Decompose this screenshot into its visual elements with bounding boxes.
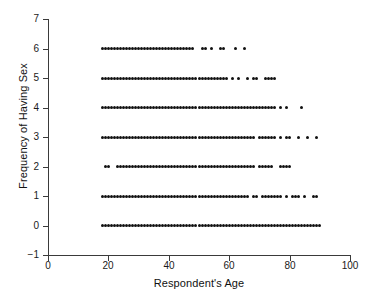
y-tick-label-0: 0 <box>17 221 39 231</box>
data-point <box>279 136 282 139</box>
y-tick-5 <box>43 78 48 79</box>
data-point <box>246 77 249 80</box>
data-point <box>204 47 207 50</box>
data-point <box>222 47 225 50</box>
data-point <box>288 136 291 139</box>
data-point <box>252 136 255 139</box>
x-axis-label: Respondent's Age <box>48 277 350 289</box>
y-tick-1 <box>43 196 48 197</box>
y-axis-label: Frequency of Having Sex <box>17 31 29 221</box>
y-axis-line <box>48 19 49 256</box>
data-point <box>306 136 309 139</box>
y-tick-0 <box>43 226 48 227</box>
x-tick-label-40: 40 <box>149 261 189 271</box>
x-tick-label-20: 20 <box>88 261 128 271</box>
x-tick-label-100: 100 <box>330 261 369 271</box>
data-point <box>315 195 318 198</box>
data-point <box>297 136 300 139</box>
y-tick-label--1: −1 <box>17 250 39 260</box>
y-tick-label-7: 7 <box>17 14 39 24</box>
data-point <box>210 47 213 50</box>
data-point <box>297 195 300 198</box>
x-tick-label-0: 0 <box>28 261 68 271</box>
x-tick-label-60: 60 <box>209 261 249 271</box>
data-point <box>237 77 240 80</box>
x-tick-label-80: 80 <box>270 261 310 271</box>
scatter-plot-figure: −101234567 020406080100 Frequency of Hav… <box>0 0 369 302</box>
data-point <box>234 47 237 50</box>
data-point <box>315 136 318 139</box>
data-point <box>252 165 255 168</box>
data-point <box>285 195 288 198</box>
data-point <box>273 136 276 139</box>
y-tick-2 <box>43 167 48 168</box>
data-point <box>273 77 276 80</box>
data-point <box>255 195 258 198</box>
data-point <box>255 77 258 80</box>
data-point <box>107 165 110 168</box>
data-point <box>225 77 228 80</box>
y-tick-6 <box>43 49 48 50</box>
data-point <box>279 195 282 198</box>
y-tick-4 <box>43 108 48 109</box>
data-point <box>243 47 246 50</box>
data-point <box>273 106 276 109</box>
y-tick-3 <box>43 137 48 138</box>
data-point <box>231 77 234 80</box>
data-point <box>270 165 273 168</box>
x-axis-line <box>48 255 351 256</box>
data-point <box>246 195 249 198</box>
y-tick-7 <box>43 19 48 20</box>
data-point <box>303 195 306 198</box>
